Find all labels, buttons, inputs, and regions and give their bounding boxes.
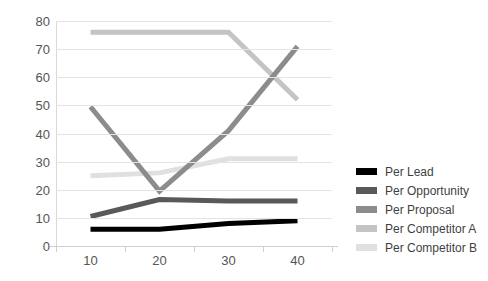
legend-item-label: Per Competitor B bbox=[385, 242, 477, 254]
legend-item-label: Per Proposal bbox=[385, 204, 454, 216]
gridline bbox=[56, 21, 332, 22]
legend-item-label: Per Lead bbox=[385, 166, 434, 178]
legend-item[interactable]: Per Opportunity bbox=[356, 181, 488, 200]
plot-area bbox=[56, 21, 332, 246]
legend-item[interactable]: Per Competitor A bbox=[356, 219, 488, 238]
x-axis-tick-label: 40 bbox=[278, 254, 318, 267]
series-line bbox=[91, 200, 298, 217]
legend-item-label: Per Competitor A bbox=[385, 223, 476, 235]
legend-item[interactable]: Per Lead bbox=[356, 162, 488, 181]
y-axis-tick-label: 60 bbox=[8, 71, 50, 84]
x-axis-tick-label: 20 bbox=[140, 254, 180, 267]
y-axis-tick-label: 10 bbox=[8, 211, 50, 224]
x-axis-tick-label: 10 bbox=[71, 254, 111, 267]
y-axis-tick-label: 30 bbox=[8, 155, 50, 168]
y-axis-labels: 01020304050607080 bbox=[0, 21, 50, 246]
chart-legend: Per LeadPer OpportunityPer ProposalPer C… bbox=[356, 162, 488, 257]
x-axis-tick bbox=[194, 246, 195, 252]
y-axis-tick-label: 40 bbox=[8, 127, 50, 140]
series-line bbox=[91, 221, 298, 229]
y-axis-tick-label: 50 bbox=[8, 99, 50, 112]
y-axis-tick-label: 80 bbox=[8, 15, 50, 28]
gridline bbox=[56, 134, 332, 135]
x-axis-tick bbox=[125, 246, 126, 252]
x-axis-labels: 10203040 bbox=[56, 254, 332, 274]
x-axis-tick bbox=[332, 246, 333, 252]
gridline bbox=[56, 162, 332, 163]
legend-item[interactable]: Per Proposal bbox=[356, 200, 488, 219]
y-axis-tick-label: 0 bbox=[8, 240, 50, 253]
legend-swatch-icon bbox=[356, 187, 377, 194]
gridline bbox=[56, 105, 332, 106]
y-axis-tick-label: 20 bbox=[8, 183, 50, 196]
gridline bbox=[56, 218, 332, 219]
legend-item[interactable]: Per Competitor B bbox=[356, 238, 488, 257]
gridline bbox=[56, 77, 332, 78]
legend-swatch-icon bbox=[356, 206, 377, 213]
gridline bbox=[56, 190, 332, 191]
gridline bbox=[56, 49, 332, 50]
x-axis-tick-label: 30 bbox=[209, 254, 249, 267]
y-axis-tick-label: 70 bbox=[8, 43, 50, 56]
legend-swatch-icon bbox=[356, 168, 377, 175]
x-axis-tick bbox=[56, 246, 57, 252]
legend-swatch-icon bbox=[356, 225, 377, 232]
x-axis-tick bbox=[263, 246, 264, 252]
legend-swatch-icon bbox=[356, 244, 377, 251]
line-chart: 01020304050607080 10203040 Per LeadPer O… bbox=[0, 0, 488, 281]
series-line bbox=[91, 32, 298, 100]
legend-item-label: Per Opportunity bbox=[385, 185, 469, 197]
